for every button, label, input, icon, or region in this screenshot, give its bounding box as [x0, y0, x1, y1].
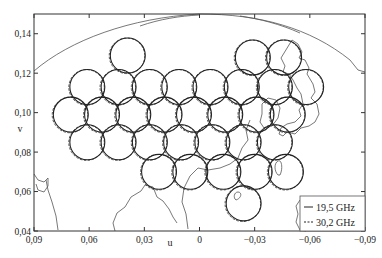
- y-tick-label: 0,08: [14, 148, 31, 158]
- x-tick-label: 0,03: [136, 235, 153, 245]
- x-axis-label: u: [168, 237, 173, 248]
- y-tick-label: 0,04: [14, 227, 31, 237]
- y-tick-label: 0,14: [14, 29, 31, 39]
- beam-19-5ghz: [237, 154, 272, 189]
- beam-19-5ghz: [70, 125, 105, 160]
- x-tick-label: 0: [197, 235, 202, 245]
- beam-19-5ghz: [208, 97, 243, 132]
- beam-19-5ghz: [173, 154, 208, 189]
- beam-19-5ghz: [224, 70, 259, 105]
- beam-19-5ghz: [289, 70, 324, 105]
- beam-19-5ghz: [193, 70, 228, 105]
- beam-circles: [52, 38, 323, 222]
- beam-19-5ghz: [142, 154, 177, 189]
- legend-label-19-5: 19,5 GHz: [316, 202, 355, 213]
- beam-19-5ghz: [101, 125, 136, 160]
- coast-india: [34, 174, 58, 230]
- x-tick-label: −0,09: [354, 235, 376, 245]
- beam-19-5ghz: [116, 97, 151, 132]
- beam-19-5ghz: [268, 154, 303, 189]
- x-tick-label: −0,03: [244, 235, 266, 245]
- y-axis-label: v: [18, 123, 23, 134]
- beam-19-5ghz: [85, 97, 120, 132]
- x-tick-label: −0,06: [299, 235, 321, 245]
- beam-19-5ghz: [239, 97, 274, 132]
- beam-19-5ghz: [206, 154, 241, 189]
- beam-19-5ghz: [257, 70, 292, 105]
- x-tick-label: 0,06: [81, 235, 98, 245]
- x-tick-label: 0,09: [26, 235, 43, 245]
- beam-19-5ghz: [270, 97, 305, 132]
- y-tick-label: 0,10: [14, 108, 31, 118]
- beam-19-5ghz: [110, 38, 145, 73]
- coast-indochina: [113, 185, 177, 231]
- legend: 19,5 GHz 30,2 GHz: [300, 196, 365, 231]
- legend-label-30-2: 30,2 GHz: [316, 217, 355, 228]
- earth-limb-arc: [34, 14, 365, 72]
- beam-19-5ghz: [101, 70, 136, 105]
- coast-japan: [279, 40, 319, 136]
- beam-19-5ghz: [53, 97, 88, 132]
- beam-19-5ghz: [70, 70, 105, 105]
- y-tick-label: 0,06: [14, 187, 31, 197]
- beam-coverage-chart: 0,090,060,030−0,03−0,06−0,09 0,040,060,0…: [0, 0, 382, 258]
- beam-19-5ghz: [226, 186, 261, 221]
- y-tick-label: 0,12: [14, 69, 31, 79]
